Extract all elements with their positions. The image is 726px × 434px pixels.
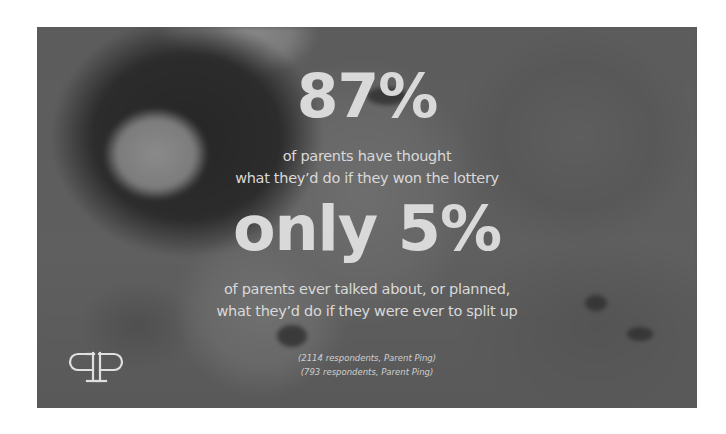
infographic-content: 87% of parents have thought what they’d … (37, 27, 697, 408)
caption-line: of parents have thought (37, 145, 697, 167)
source-footnotes: (2114 respondents, Parent Ping) (793 res… (37, 351, 697, 379)
stat-2-caption: of parents ever talked about, or planned… (37, 278, 697, 322)
stat-1-caption: of parents have thought what they’d do i… (37, 145, 697, 189)
stat-only-5-percent: only 5% (37, 198, 697, 260)
footnote-line: (2114 respondents, Parent Ping) (37, 351, 697, 365)
parent-ping-logo-icon (67, 351, 125, 383)
footnote-line: (793 respondents, Parent Ping) (37, 365, 697, 379)
caption-line: what they’d do if they won the lottery (37, 167, 697, 189)
stat-87-percent: 87% (37, 66, 697, 126)
caption-line: of parents ever talked about, or planned… (37, 278, 697, 300)
caption-line: what they’d do if they were ever to spli… (37, 300, 697, 322)
infographic-panel: 87% of parents have thought what they’d … (37, 27, 697, 408)
